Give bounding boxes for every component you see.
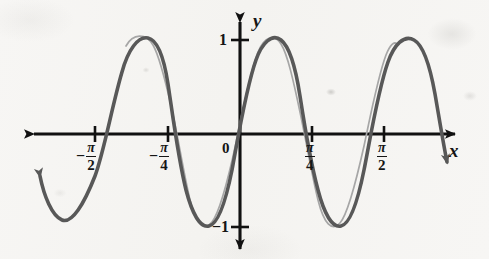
plot-canvas bbox=[0, 0, 489, 259]
thick-sine-curve bbox=[40, 38, 447, 226]
x-tick-label-pos-pi-over-4: π 4 bbox=[305, 141, 315, 173]
x-axis-label: x bbox=[449, 141, 459, 160]
x-tick-label-neg-pi-over-4: − π 4 bbox=[149, 141, 169, 173]
y-tick-label-neg-one: −1 bbox=[212, 219, 229, 235]
fraction-pi-over-4: π 4 bbox=[159, 141, 169, 173]
y-axis-label: y bbox=[253, 11, 261, 30]
fraction-denominator: 2 bbox=[378, 157, 386, 173]
thick-sine-path bbox=[40, 38, 447, 226]
math-graph-figure: y x 0 1 −1 − π 2 − π 4 π 4 bbox=[0, 0, 489, 259]
fraction-numerator: π bbox=[159, 141, 169, 157]
fraction-numerator: π bbox=[86, 141, 96, 157]
x-tick-label-neg-pi-over-2: − π 2 bbox=[76, 141, 96, 173]
x-tick-label-pos-pi-over-2: π 2 bbox=[377, 141, 387, 173]
fraction-denominator: 2 bbox=[87, 157, 95, 173]
minus-sign: − bbox=[149, 148, 158, 164]
fraction-numerator: π bbox=[377, 141, 387, 157]
fraction-pi-over-2: π 2 bbox=[377, 141, 387, 173]
origin-label: 0 bbox=[222, 141, 230, 156]
fraction-numerator: π bbox=[305, 141, 315, 157]
fraction-denominator: 4 bbox=[160, 157, 168, 173]
x-axis bbox=[34, 126, 455, 142]
minus-sign: − bbox=[76, 148, 85, 164]
y-tick-label-one: 1 bbox=[219, 32, 227, 48]
fraction-pi-over-2: π 2 bbox=[86, 141, 96, 173]
fraction-pi-over-4: π 4 bbox=[305, 141, 315, 173]
fraction-denominator: 4 bbox=[306, 157, 314, 173]
